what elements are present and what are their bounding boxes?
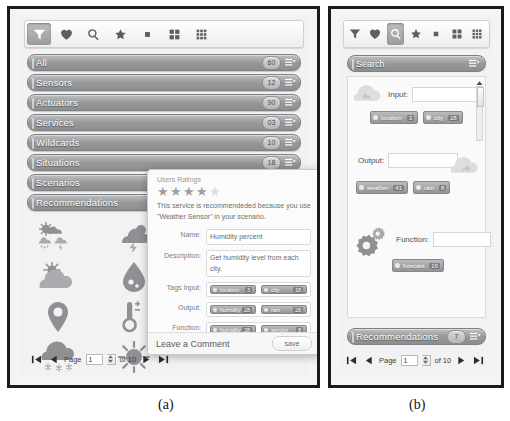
tag-chip-count: 3 [407,115,414,121]
grid-2x2-button[interactable] [162,23,186,45]
recommendations-count-badge: 7 [447,330,466,344]
figure-panel-a: All 60 Sensors 12 Actuators 90 Services … [7,6,320,388]
category-menu-icon[interactable] [285,137,296,148]
function-field[interactable] [433,232,491,247]
tag-chip-count: 16 [429,263,440,269]
scrollbar-track[interactable] [476,86,483,141]
last-page-button[interactable] [472,354,485,367]
star-icon[interactable]: ★ [183,184,196,199]
star-rating[interactable]: ★★★★★ [157,185,311,198]
previous-page-button[interactable] [47,353,60,366]
figure-caption-a: (a) [158,397,174,413]
category-row-wildcards[interactable]: Wildcards 10 [27,134,301,151]
description-field[interactable]: Get humidity level from each city. [206,250,311,277]
sun-behind-cloud-icon[interactable] [35,260,81,294]
recommendations-bar[interactable]: Recommendations 7 [347,328,486,345]
toolbar-b [343,20,490,48]
filter-button[interactable] [27,23,51,45]
search-header-bar[interactable]: Search [347,55,486,72]
previous-page-button[interactable] [362,354,375,367]
category-menu-icon[interactable] [285,117,296,128]
tag-chip-label: city [434,115,443,121]
category-menu-icon[interactable] [285,97,296,108]
input-section: Input: [388,87,482,102]
search-button[interactable] [81,23,105,45]
tag-chip-label: rain [271,307,280,313]
tag-chip-count: 18 [448,115,459,121]
star-icon[interactable]: ★ [209,184,222,199]
category-menu-icon[interactable] [285,77,296,88]
category-row-actuators[interactable]: Actuators 90 [27,94,301,111]
page-number-input[interactable]: 1 [86,354,103,365]
category-row-all[interactable]: All 60 [27,54,301,71]
page-total-label: of 10 [435,356,452,365]
category-label: Actuators [36,97,262,108]
star-icon[interactable]: ★ [196,184,209,199]
tag-chip[interactable]: weather41 [356,181,408,194]
star-icon[interactable]: ★ [170,184,183,199]
favorites-button[interactable] [54,23,78,45]
search-menu-icon[interactable] [469,58,480,69]
input-field[interactable] [412,87,482,102]
filter-button[interactable] [346,23,363,45]
search-button[interactable] [387,23,404,45]
field-label: Name: [157,229,206,238]
category-menu-icon[interactable] [285,57,296,68]
output-tags-field[interactable]: humidity28 rain28 [206,302,311,317]
rating-button[interactable] [407,23,424,45]
tag-chip[interactable]: city18 [261,285,307,294]
field-label: Function: [157,322,206,331]
tag-chip[interactable]: rain8 [413,181,450,194]
next-page-button[interactable] [455,354,468,367]
leave-comment-label[interactable]: Leave a Comment [156,339,272,349]
tag-chip[interactable]: forecast16 [392,259,444,272]
name-field[interactable]: Humidity percent [206,229,311,246]
first-page-button[interactable] [345,354,358,367]
star-icon[interactable]: ★ [157,184,170,199]
vertical-scrollbar[interactable] [476,81,483,141]
category-label: Sensors [36,77,262,88]
grid-3x3-button[interactable] [189,23,213,45]
scrollbar-thumb[interactable] [477,87,484,107]
tag-chip[interactable]: location3 [370,111,418,124]
toolbar-a [24,20,304,48]
tag-chip-label: humidity [220,307,240,313]
category-menu-icon[interactable] [285,157,296,168]
location-pin-icon[interactable] [35,300,81,334]
grid-3x3-button[interactable] [469,23,486,45]
page-spinner[interactable] [107,354,116,365]
tag-chip-label: location [381,115,402,121]
field-row-description: Description: Get humidity level from eac… [157,250,311,277]
tag-chip[interactable]: humidity28 [210,305,256,314]
category-row-services[interactable]: Services 03 [27,114,301,131]
single-view-button[interactable] [135,23,159,45]
category-label: All [36,57,262,68]
field-label: Tags Input: [157,282,206,291]
weather-collage-icon[interactable] [35,220,81,254]
tag-chip[interactable]: location3 [210,285,256,294]
tag-chip[interactable]: city18 [423,111,463,124]
tag-chip[interactable]: rain28 [261,305,307,314]
gear-icon [356,225,390,257]
rating-button[interactable] [108,23,132,45]
output-field[interactable] [388,153,458,168]
single-view-button[interactable] [428,23,445,45]
figure-panel-b: Search Input: location3 city18 [328,6,504,388]
page-label: Page [64,355,82,364]
page-number-input[interactable]: 1 [401,355,418,366]
grid-2x2-button[interactable] [448,23,465,45]
tag-chip-label: rain [424,185,434,191]
first-page-button[interactable] [30,353,43,366]
tag-chip-label: location [220,287,239,293]
page-spinner[interactable] [422,355,431,366]
recommendations-menu-icon[interactable] [470,331,481,342]
category-row-sensors[interactable]: Sensors 12 [27,74,301,91]
tag-chip-count: 28 [293,307,303,313]
output-label: Output: [358,156,384,165]
save-button[interactable]: save [272,336,312,351]
tags-input-field[interactable]: location3 city18 [206,282,311,297]
category-count-badge: 18 [262,156,281,170]
category-count-badge: 60 [262,56,281,70]
favorites-button[interactable] [366,23,383,45]
tag-chip-count: 28 [242,307,252,313]
